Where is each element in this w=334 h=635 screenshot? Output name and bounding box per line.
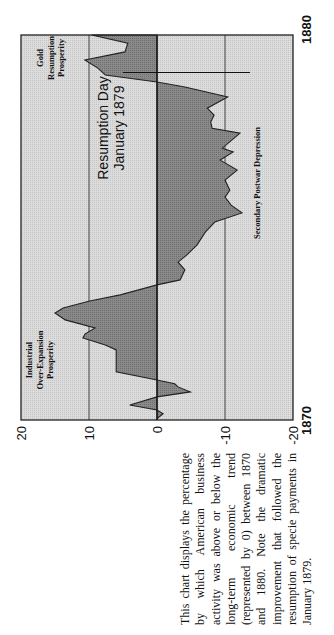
annotation-line: Resumption: [46, 36, 56, 80]
annotation-line: Prosperity: [56, 38, 66, 77]
annotation-line: Resumption Day: [95, 76, 111, 180]
value-axis-ticks: 20100-10-20: [14, 426, 301, 445]
year-label-end: 1880: [299, 15, 314, 44]
annotation-postwar-depression: Secondary Postwar Depression: [252, 127, 262, 239]
value-tick-label: 0: [150, 426, 165, 433]
value-tick-label: 20: [14, 426, 29, 440]
annotation-line: January 1879: [111, 85, 127, 170]
annotation-line: Over-Expansion: [35, 330, 45, 389]
annotation-line: Prosperity: [45, 340, 55, 379]
chart-caption: This chart displays the percentage by wh…: [178, 453, 302, 625]
year-label-start: 1870: [299, 406, 314, 435]
value-tick-label: 10: [82, 426, 97, 440]
value-tick-label: -10: [218, 426, 233, 445]
annotation-line: Secondary Postwar Depression: [252, 127, 262, 239]
annotation-line: Gold: [35, 49, 45, 67]
annotation-resumption-day: Resumption DayJanuary 1879: [95, 76, 127, 180]
annotation-line: Industrial: [24, 341, 34, 378]
